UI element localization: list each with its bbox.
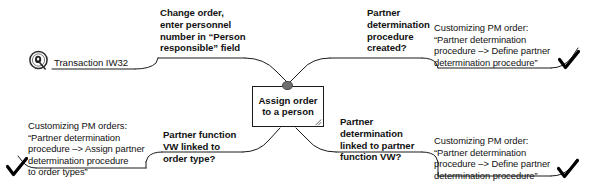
- center-node-label: Assign order to a person: [258, 95, 317, 118]
- branch-curve-center-topright: [290, 58, 330, 82]
- branch-curve-center-bottomright: [296, 128, 336, 152]
- checkmark-icon: [557, 159, 579, 179]
- center-node-box[interactable]: Assign order to a person: [252, 86, 324, 127]
- callout-linked-partner-function: Partner determination linked to partner …: [340, 116, 440, 163]
- checkmark-icon: [6, 157, 28, 177]
- branch-curve-transaction: [135, 58, 158, 69]
- callout-partner-function-vw: Partner function VW linked to order type…: [163, 129, 271, 164]
- branch-curve-change-order: [245, 58, 287, 82]
- callout-assign-order-types: Customizing PM orders: “Partner determin…: [28, 120, 174, 178]
- resize-handle-icon[interactable]: [315, 119, 322, 126]
- center-node-dot[interactable]: [282, 81, 293, 90]
- diagram-canvas: Assign order to a person Transaction IW3…: [0, 0, 594, 193]
- transaction-label: Transaction IW32: [54, 57, 128, 69]
- seal-stamp-icon: [28, 50, 49, 71]
- callout-change-order: Change order, enter personnel number in …: [160, 7, 272, 54]
- checkmark-icon: [558, 50, 580, 70]
